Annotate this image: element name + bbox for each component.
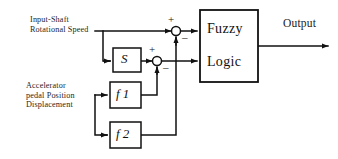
wire-f2-feedback	[141, 38, 176, 135]
f1-block-label: f 1	[116, 86, 129, 102]
fuzzy-logic-label-line1: Fuzzy	[207, 21, 243, 37]
input-shaft-label-line1: Input-Shaft	[30, 15, 89, 25]
input-shaft-label-line2: Rotational Speed	[30, 25, 89, 35]
accelerator-label-line1: Accelerator	[26, 81, 75, 91]
sum-upper-plus-sign: +	[168, 13, 174, 25]
f2-block-label: f 2	[116, 126, 129, 142]
block-diagram: Input-Shaft Rotational Speed Accelerator…	[0, 0, 338, 159]
output-label: Output	[283, 17, 316, 31]
sum-lower-minus-sign: –	[163, 61, 169, 73]
sum-lower-plus-sign: +	[149, 43, 155, 55]
accelerator-label: Accelerator pedal Position Displacement	[26, 81, 75, 110]
accelerator-label-line3: Displacement	[26, 100, 75, 110]
sum-upper-circle	[172, 27, 181, 36]
sum-upper-minus-sign: –	[182, 31, 188, 43]
wire-input-shaft-branch-to-s	[103, 31, 110, 61]
sum-lower-circle	[153, 57, 162, 66]
wire-f1-feedback	[141, 68, 157, 95]
wire-accelerator-branch-down	[95, 95, 107, 135]
fuzzy-logic-label-line2: Logic	[207, 54, 241, 70]
input-shaft-label: Input-Shaft Rotational Speed	[30, 15, 89, 34]
accelerator-label-line2: pedal Position	[26, 91, 75, 101]
s-block-label: S	[121, 51, 128, 67]
